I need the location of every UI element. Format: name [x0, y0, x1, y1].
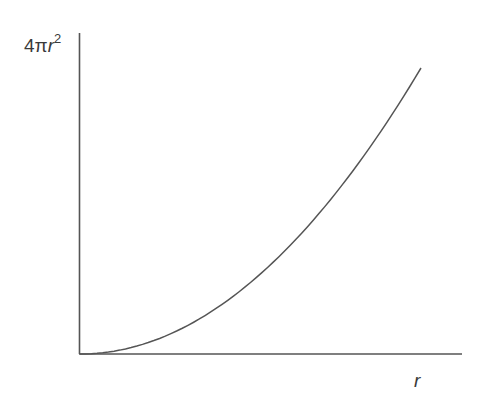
x-axis-label: r: [414, 370, 420, 392]
curve-4pi-r-squared: [80, 68, 421, 354]
chart-plot: [0, 0, 485, 404]
y-axis-label: 4πr2: [24, 33, 61, 57]
